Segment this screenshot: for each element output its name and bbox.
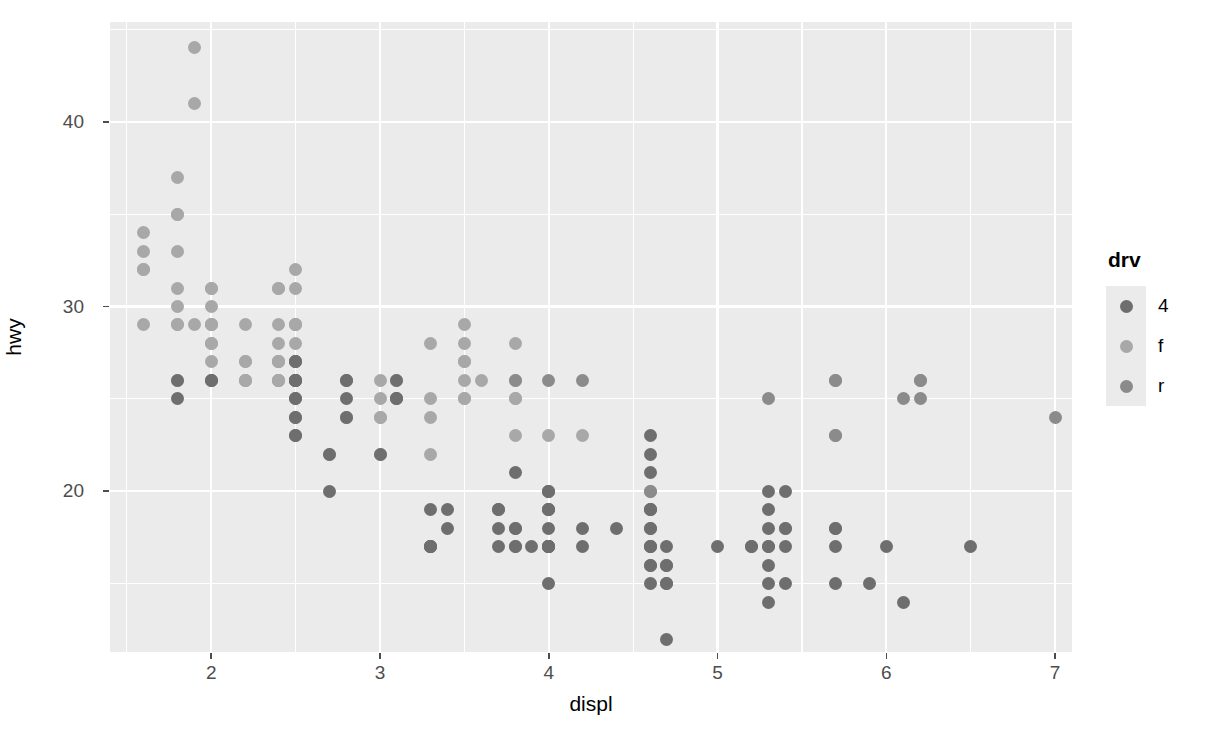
- gridline-major-vertical: [379, 22, 381, 652]
- data-point: [644, 540, 657, 553]
- data-point: [542, 485, 555, 498]
- legend-point-icon: [1120, 380, 1133, 393]
- data-point: [644, 577, 657, 590]
- legend-item-label: r: [1158, 375, 1164, 397]
- data-point: [492, 540, 505, 553]
- gridline-minor-horizontal: [110, 398, 1072, 399]
- data-point: [660, 559, 673, 572]
- data-point: [390, 374, 403, 387]
- data-point: [424, 503, 437, 516]
- x-tick-label: 4: [544, 662, 555, 684]
- data-point: [458, 392, 471, 405]
- data-point: [542, 522, 555, 535]
- data-point: [509, 466, 522, 479]
- x-tick-mark: [210, 653, 212, 659]
- data-point: [239, 355, 252, 368]
- data-point: [660, 540, 673, 553]
- x-tick-mark: [548, 653, 550, 659]
- data-point: [205, 374, 218, 387]
- data-point: [542, 577, 555, 590]
- x-tick-label: 3: [375, 662, 386, 684]
- data-point: [897, 596, 910, 609]
- x-tick-mark: [886, 653, 888, 659]
- data-point: [171, 392, 184, 405]
- data-point: [644, 522, 657, 535]
- data-point: [374, 374, 387, 387]
- data-point: [272, 355, 285, 368]
- plot-panel: [110, 22, 1072, 652]
- legend-key-swatch: [1106, 366, 1146, 406]
- data-point: [762, 503, 775, 516]
- data-point: [205, 355, 218, 368]
- data-point: [897, 392, 910, 405]
- data-point: [964, 540, 977, 553]
- legend-point-icon: [1120, 340, 1133, 353]
- data-point: [424, 392, 437, 405]
- gridline-major-horizontal: [110, 305, 1072, 307]
- data-point: [880, 540, 893, 553]
- data-point: [289, 429, 302, 442]
- y-tick-mark: [103, 306, 109, 308]
- x-tick-label: 5: [712, 662, 723, 684]
- data-point: [779, 540, 792, 553]
- data-point: [374, 392, 387, 405]
- data-point: [829, 429, 842, 442]
- legend-item-label: 4: [1158, 295, 1169, 317]
- legend-item-f[interactable]: f: [1106, 326, 1169, 366]
- data-point: [171, 374, 184, 387]
- legend: drv 4fr: [1106, 248, 1169, 406]
- data-point: [323, 485, 336, 498]
- y-tick-label: 40: [63, 111, 84, 133]
- data-point: [289, 355, 302, 368]
- y-tick-mark: [103, 121, 109, 123]
- data-point: [188, 97, 201, 110]
- x-tick-mark: [1054, 653, 1056, 659]
- ggplot-scatter-chart: 234567203040 displ hwy drv 4fr: [0, 0, 1212, 746]
- y-axis-title: hwy: [2, 318, 26, 355]
- data-point: [492, 522, 505, 535]
- data-point: [829, 540, 842, 553]
- gridline-major-horizontal: [110, 490, 1072, 492]
- gridline-minor-vertical: [633, 22, 634, 652]
- data-point: [424, 540, 437, 553]
- data-point: [509, 429, 522, 442]
- data-point: [644, 485, 657, 498]
- y-tick-label: 30: [63, 296, 84, 318]
- x-tick-mark: [717, 653, 719, 659]
- data-point: [576, 540, 589, 553]
- data-point: [644, 448, 657, 461]
- gridline-minor-vertical: [126, 22, 127, 652]
- data-point: [914, 392, 927, 405]
- data-point: [424, 448, 437, 461]
- data-point: [424, 411, 437, 424]
- data-point: [289, 282, 302, 295]
- data-point: [205, 337, 218, 350]
- data-point: [272, 282, 285, 295]
- x-axis-title: displ: [110, 692, 1072, 716]
- gridline-major-vertical: [1054, 22, 1056, 652]
- data-point: [542, 540, 555, 553]
- data-point: [779, 577, 792, 590]
- data-point: [762, 522, 775, 535]
- data-point: [272, 318, 285, 331]
- data-point: [441, 503, 454, 516]
- data-point: [340, 411, 353, 424]
- legend-item-r[interactable]: r: [1106, 366, 1169, 406]
- data-point: [829, 522, 842, 535]
- data-point: [171, 282, 184, 295]
- data-point: [289, 337, 302, 350]
- data-point: [509, 522, 522, 535]
- data-point: [289, 392, 302, 405]
- data-point: [576, 429, 589, 442]
- data-point: [323, 448, 336, 461]
- data-point: [610, 522, 623, 535]
- legend-item-4[interactable]: 4: [1106, 286, 1169, 326]
- data-point: [525, 540, 538, 553]
- data-point: [205, 318, 218, 331]
- data-point: [509, 374, 522, 387]
- data-point: [660, 633, 673, 646]
- data-point: [374, 448, 387, 461]
- x-tick-label: 2: [206, 662, 217, 684]
- data-point: [441, 522, 454, 535]
- y-tick-label: 20: [63, 480, 84, 502]
